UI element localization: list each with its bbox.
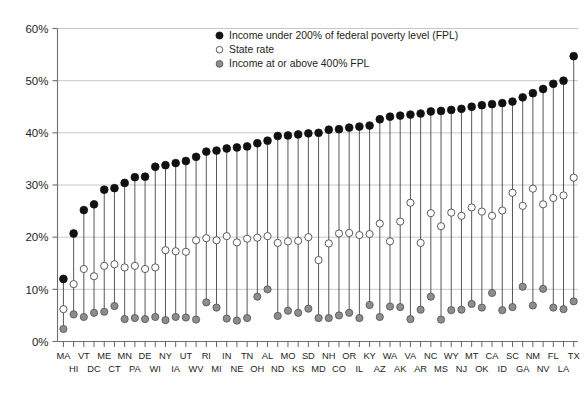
data-point-income-400fpl [305,305,312,312]
data-point-state-rate [478,208,485,215]
data-point-income-under-200fpl [151,163,159,171]
x-axis-state-label: AR [414,364,427,374]
data-point-state-rate [80,265,87,272]
data-point-income-under-200fpl [172,159,180,167]
chart-container: 0%10%20%30%40%50%60% MAHIVTDCMECTMNPADEW… [0,0,585,401]
data-point-state-rate [417,239,424,246]
data-point-state-rate [519,202,526,209]
data-point-state-rate [141,265,148,272]
x-axis-state-label: ME [97,351,111,361]
data-point-income-400fpl [254,293,261,300]
data-point-income-under-200fpl [478,101,486,109]
data-point-state-rate [570,174,577,181]
data-point-income-400fpl [162,317,169,324]
x-axis-state-label: NC [424,351,438,361]
data-point-state-rate [121,264,128,271]
data-point-income-400fpl [192,316,199,323]
data-point-income-under-200fpl [80,206,88,214]
x-axis-state-label: NE [230,364,243,374]
x-axis-state-label: IN [222,351,231,361]
data-point-state-rate [305,234,312,241]
data-point-income-under-200fpl [264,137,272,145]
x-axis-state-label: MO [280,351,295,361]
data-point-income-under-200fpl [253,139,261,147]
data-point-income-400fpl [550,304,557,311]
data-point-state-rate [192,237,199,244]
x-axis-state-label: AZ [374,364,386,374]
data-point-state-rate [182,248,189,255]
data-point-income-400fpl [325,314,332,321]
x-axis-state-label: WA [383,351,398,361]
data-point-state-rate [346,229,353,236]
data-point-income-400fpl [376,313,383,320]
data-point-state-rate [244,235,251,242]
x-axis-state-label: MA [56,351,71,361]
x-axis-state-label: ID [498,364,508,374]
x-axis-state-label: KS [292,364,304,374]
data-point-income-under-200fpl [427,108,435,116]
data-point-income-400fpl [509,303,516,310]
data-point-income-400fpl [264,286,271,293]
legend-marker-poor [216,32,223,39]
data-point-state-rate [397,218,404,225]
data-point-state-rate [376,220,383,227]
data-point-state-rate [111,261,118,268]
data-point-income-400fpl [284,307,291,314]
x-axis-state-label: IL [356,364,364,374]
data-point-state-rate [223,233,230,240]
data-point-income-under-200fpl [274,132,282,140]
data-point-state-rate [254,234,261,241]
x-axis-state-label: VA [405,351,418,361]
data-point-state-rate [264,233,271,240]
data-point-income-under-200fpl [386,113,394,121]
data-point-income-under-200fpl [396,112,404,120]
x-axis-state-label: GA [516,364,530,374]
data-point-state-rate [509,189,516,196]
data-point-state-rate [366,230,373,237]
data-point-income-400fpl [397,303,404,310]
data-point-income-400fpl [407,315,414,322]
data-point-state-rate [101,262,108,269]
data-point-income-400fpl [111,302,118,309]
legend-marker-rich [216,61,223,68]
x-axis-state-label: CA [486,351,500,361]
x-axis-state-label: SC [506,351,519,361]
data-point-income-400fpl [315,314,322,321]
x-axis-state-label: OK [475,364,489,374]
data-point-income-under-200fpl [162,161,170,169]
x-axis-state-label: UT [180,351,193,361]
legend-label-state: State rate [229,44,274,55]
x-axis-state-label: MD [311,364,326,374]
x-axis-state-label: AL [262,351,273,361]
data-point-income-400fpl [560,306,567,313]
data-point-state-rate [213,237,220,244]
data-point-state-rate [448,209,455,216]
x-axis-state-label: DC [87,364,101,374]
data-point-income-400fpl [570,298,577,305]
data-point-state-rate [325,240,332,247]
y-axis-tick-label: 40% [25,127,48,139]
x-axis-state-label: TX [568,351,580,361]
data-point-income-400fpl [519,283,526,290]
data-point-state-rate [162,247,169,254]
data-point-income-400fpl [346,309,353,316]
data-point-income-400fpl [356,314,363,321]
data-point-income-400fpl [152,313,159,320]
x-axis-state-label: TN [241,351,253,361]
data-point-income-under-200fpl [60,275,68,283]
data-point-state-rate [407,199,414,206]
data-point-income-under-200fpl [488,100,496,108]
x-axis-state-label: IA [171,364,181,374]
data-point-state-rate [499,207,506,214]
data-point-income-400fpl [141,315,148,322]
data-point-income-under-200fpl [325,126,333,134]
data-point-state-rate [335,230,342,237]
x-axis-state-label: CT [108,364,121,374]
data-point-income-under-200fpl [437,107,445,115]
data-point-state-rate [550,194,557,201]
data-point-income-under-200fpl [294,130,302,138]
data-point-state-rate [90,273,97,280]
data-point-income-400fpl [80,313,87,320]
data-point-state-rate [152,264,159,271]
data-point-state-rate [560,192,567,199]
